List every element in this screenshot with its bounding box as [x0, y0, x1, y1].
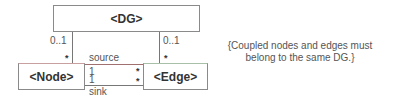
mult-sink-nodeend: 1 [89, 75, 95, 85]
mult-dg-node-nodeend: * [65, 54, 69, 63]
mult-dg-edge-edgeend: * [164, 54, 168, 63]
assoc-dg-edge-line [159, 32, 160, 63]
class-dg-label: <DG> [110, 12, 142, 26]
constraint-note: {Coupled nodes and edges must belong to … [225, 40, 375, 64]
mult-source-edgeend: * [136, 67, 140, 76]
class-dg: <DG> [53, 5, 200, 32]
class-edge-label: <Edge> [154, 70, 197, 84]
assoc-source-line [85, 64, 143, 65]
class-node-label: <Node> [29, 70, 73, 84]
constraint-note-line1: {Coupled nodes and edges must [225, 40, 375, 52]
mult-dg-edge-dgend: 0..1 [163, 36, 180, 46]
class-edge: <Edge> [143, 63, 208, 90]
role-source: source [89, 53, 119, 63]
role-sink: sink [89, 87, 107, 97]
mult-dg-node-dgend: 0..1 [50, 36, 67, 46]
assoc-dg-node-line [72, 32, 73, 63]
class-node: <Node> [18, 63, 85, 90]
mult-sink-edgeend: * [136, 77, 140, 86]
constraint-note-line2: belong to the same DG.} [225, 52, 375, 64]
